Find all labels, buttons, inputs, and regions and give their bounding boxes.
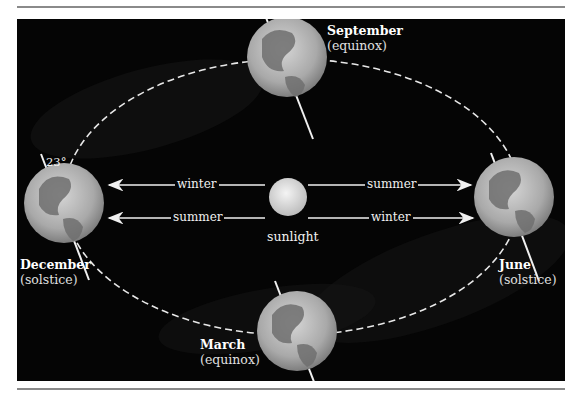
globe-september bbox=[247, 19, 327, 139]
bottom-rule bbox=[17, 388, 565, 390]
sun bbox=[269, 178, 307, 216]
label-december: December (solstice) bbox=[20, 257, 91, 287]
arrow-label-left-bottom: summer bbox=[171, 210, 224, 224]
arrow-label-right-bottom: winter bbox=[369, 210, 413, 224]
label-march-event: (equinox) bbox=[200, 352, 260, 367]
tilt-label: 23° bbox=[46, 155, 66, 170]
label-december-name: December bbox=[20, 257, 91, 272]
label-june: June (solstice) bbox=[499, 257, 557, 287]
label-september: September (equinox) bbox=[327, 23, 403, 53]
sun-label: sunlight bbox=[267, 229, 319, 244]
arrow-label-left-top: winter bbox=[175, 177, 219, 191]
label-march-name: March bbox=[200, 337, 260, 352]
label-september-name: September bbox=[327, 23, 403, 38]
label-september-event: (equinox) bbox=[327, 38, 403, 53]
diagram-panel: winter summer summer winter sunlight 23°… bbox=[17, 19, 565, 381]
label-march: March (equinox) bbox=[200, 337, 260, 367]
label-december-event: (solstice) bbox=[20, 272, 91, 287]
top-rule bbox=[17, 6, 565, 8]
orbit-diagram bbox=[17, 19, 565, 381]
arrow-label-right-top: summer bbox=[365, 177, 418, 191]
label-june-name: June bbox=[499, 257, 557, 272]
label-june-event: (solstice) bbox=[499, 272, 557, 287]
